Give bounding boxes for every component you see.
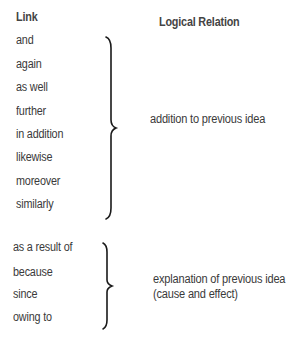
link-item: because bbox=[13, 265, 53, 279]
link-item: again bbox=[16, 57, 42, 71]
relation-text-addition: addition to previous idea bbox=[150, 112, 265, 127]
curly-brace-icon bbox=[105, 36, 121, 220]
column-header-logical-relation: Logical Relation bbox=[159, 15, 240, 29]
link-item: similarly bbox=[16, 197, 53, 211]
link-item: likewise bbox=[16, 150, 52, 164]
column-header-link: Link bbox=[16, 10, 37, 24]
link-item: moreover bbox=[16, 174, 60, 188]
link-item: further bbox=[16, 104, 46, 118]
link-item: as a result of bbox=[13, 240, 72, 254]
link-item: since bbox=[13, 287, 37, 301]
link-item: and bbox=[16, 33, 33, 47]
link-item: as well bbox=[16, 80, 48, 94]
relation-text-explanation-line2: (cause and effect) bbox=[153, 287, 238, 302]
link-item: owing to bbox=[13, 310, 52, 324]
link-item: in addition bbox=[16, 127, 63, 141]
curly-brace-icon bbox=[102, 242, 116, 330]
relation-text-explanation-line1: explanation of previous idea bbox=[153, 272, 285, 287]
